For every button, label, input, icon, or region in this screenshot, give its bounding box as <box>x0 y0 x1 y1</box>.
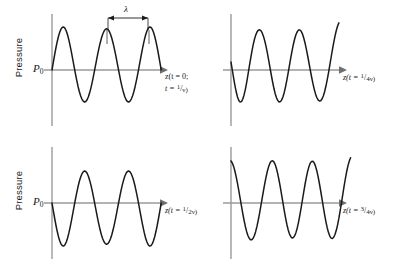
y-axis-label-top-left: Pressure <box>13 22 24 94</box>
baseline-subscript: 0 <box>40 200 44 209</box>
panel-bottom-right: z(t = 3/4ν) <box>203 133 405 266</box>
fraction-denominator: 2ν) <box>188 208 197 216</box>
x-axis-label-bottom-left: z(t = 1/2ν) <box>165 205 197 218</box>
wavelength-arrow-right <box>142 16 148 21</box>
panel-bottom-left-plot <box>0 133 202 266</box>
x-axis-label-fraction: 3/4ν) <box>360 205 375 218</box>
fraction-denominator: 4ν) <box>366 208 375 216</box>
baseline-label-bottom-left: P0 <box>33 195 43 207</box>
x-axis-label-line2: t = 1/ν) <box>165 83 188 96</box>
x-axis-label-top-right: z(t = 1/4ν) <box>343 72 375 85</box>
wave-curve-top-right <box>231 23 339 102</box>
x-axis-label-line2-prefix: t = <box>165 84 177 93</box>
x-axis-label-line1: z(t = 0; <box>165 72 188 83</box>
x-axis-label-line2-fraction: 1/ν) <box>177 83 188 96</box>
wave-curve-bottom-left <box>52 171 161 246</box>
x-axis-label-fraction: 1/4ν) <box>360 72 375 85</box>
fraction-denominator: ν) <box>182 86 188 94</box>
axes-top-left <box>44 14 168 126</box>
panel-top-left-plot <box>0 0 202 133</box>
wavelength-label: λ <box>124 4 128 14</box>
wavelength-arrow-left <box>108 16 114 21</box>
panel-top-right: z(t = 1/4ν) <box>203 0 405 133</box>
sound-wave-figure: λ Pressure P0 z(t = 0; t = 1/ν) z(t = 1/… <box>0 0 405 266</box>
x-axis-label-prefix: z(t = <box>343 73 360 82</box>
baseline-subscript: 0 <box>40 67 44 76</box>
wavelength-marker <box>107 16 149 44</box>
axes-bottom-left <box>44 147 168 259</box>
panel-top-left: λ Pressure P0 z(t = 0; t = 1/ν) <box>0 0 202 133</box>
wave-curve-top-left <box>52 27 161 102</box>
panel-bottom-right-plot <box>203 133 405 266</box>
baseline-label-top-left: P0 <box>33 62 43 74</box>
x-axis-label-bottom-right: z(t = 3/4ν) <box>343 205 375 218</box>
x-axis-label-top-left: z(t = 0; t = 1/ν) <box>165 72 188 95</box>
wave-curve-bottom-right <box>231 158 351 240</box>
baseline-symbol: P <box>33 195 40 207</box>
x-axis-label-prefix: z(t = <box>165 206 182 215</box>
x-axis-label-fraction: 1/2ν) <box>182 205 197 218</box>
panel-bottom-left: Pressure P0 z(t = 1/2ν) <box>0 133 202 266</box>
panel-top-right-plot <box>203 0 405 133</box>
baseline-symbol: P <box>33 62 40 74</box>
y-axis-label-bottom-left: Pressure <box>13 155 24 227</box>
x-axis-label-prefix: z(t = <box>343 206 360 215</box>
fraction-denominator: 4ν) <box>366 75 375 83</box>
